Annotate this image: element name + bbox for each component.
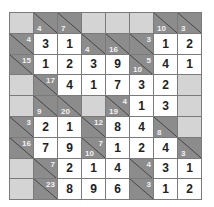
entry-cell[interactable]: 7 bbox=[106, 75, 130, 96]
blank-cell bbox=[130, 13, 154, 34]
entry-cell[interactable]: 8 bbox=[58, 179, 82, 200]
entry-cell[interactable]: 2 bbox=[130, 138, 154, 159]
blank-cell bbox=[178, 75, 202, 96]
entry-cell[interactable]: 4 bbox=[58, 75, 82, 96]
down-clue-sum: 3 bbox=[181, 149, 185, 158]
entry-cell[interactable]: 9 bbox=[106, 55, 130, 76]
blank-cell bbox=[82, 13, 106, 34]
down-clue-sum: 8 bbox=[157, 128, 161, 137]
clue-cell: 16 bbox=[10, 138, 34, 159]
kakuro-board: 4710343141631215123951041174173292041913… bbox=[9, 12, 202, 200]
entry-cell[interactable]: 2 bbox=[58, 159, 82, 180]
clue-cell: 12 bbox=[82, 117, 106, 138]
entry-cell[interactable]: 2 bbox=[178, 179, 202, 200]
down-clue-sum: 19 bbox=[109, 107, 118, 116]
clue-cell: 15 bbox=[10, 55, 34, 76]
down-clue-sum: 16 bbox=[109, 45, 118, 54]
blank-cell bbox=[178, 117, 202, 138]
entry-cell[interactable]: 3 bbox=[130, 75, 154, 96]
clue-cell: 17 bbox=[34, 75, 58, 96]
clue-cell: 3 bbox=[130, 34, 154, 55]
entry-cell[interactable]: 2 bbox=[178, 34, 202, 55]
entry-cell[interactable]: 4 bbox=[154, 55, 178, 76]
across-clue-sum: 7 bbox=[99, 139, 103, 148]
across-clue-sum: 7 bbox=[51, 160, 55, 169]
clue-cell: 510 bbox=[130, 55, 154, 76]
blank-cell bbox=[10, 75, 34, 96]
clue-cell: 8 bbox=[154, 117, 178, 138]
down-clue-sum: 4 bbox=[37, 24, 41, 33]
across-clue-sum: 12 bbox=[94, 118, 103, 127]
blank-cell bbox=[178, 96, 202, 117]
entry-cell[interactable]: 9 bbox=[58, 138, 82, 159]
across-clue-sum: 5 bbox=[147, 56, 151, 65]
clue-cell: 4 bbox=[130, 159, 154, 180]
clue-cell: 4 bbox=[10, 34, 34, 55]
clue-cell: 9 bbox=[34, 96, 58, 117]
clue-cell: 4 bbox=[34, 13, 58, 34]
entry-cell[interactable]: 1 bbox=[178, 159, 202, 180]
entry-cell[interactable]: 1 bbox=[82, 75, 106, 96]
down-clue-sum: 20 bbox=[61, 107, 70, 116]
entry-cell[interactable]: 1 bbox=[58, 117, 82, 138]
across-clue-sum: 4 bbox=[123, 97, 127, 106]
clue-cell: 3 bbox=[178, 138, 202, 159]
across-clue-sum: 17 bbox=[46, 76, 55, 85]
across-clue-sum: 4 bbox=[147, 160, 151, 169]
clue-cell: 710 bbox=[82, 138, 106, 159]
entry-cell[interactable]: 2 bbox=[34, 117, 58, 138]
clue-cell: 23 bbox=[34, 179, 58, 200]
clue-cell: 10 bbox=[154, 13, 178, 34]
entry-cell[interactable]: 1 bbox=[58, 34, 82, 55]
down-clue-sum: 10 bbox=[157, 24, 166, 33]
entry-cell[interactable]: 3 bbox=[82, 55, 106, 76]
clue-cell: 7 bbox=[58, 13, 82, 34]
blank-cell bbox=[106, 13, 130, 34]
entry-cell[interactable]: 1 bbox=[34, 55, 58, 76]
across-clue-sum: 3 bbox=[147, 35, 151, 44]
entry-cell[interactable]: 8 bbox=[106, 117, 130, 138]
entry-cell[interactable]: 3 bbox=[154, 159, 178, 180]
clue-cell: 16 bbox=[106, 34, 130, 55]
down-clue-sum: 10 bbox=[133, 65, 142, 74]
down-clue-sum: 7 bbox=[61, 24, 65, 33]
entry-cell[interactable]: 2 bbox=[154, 75, 178, 96]
clue-cell: 419 bbox=[106, 96, 130, 117]
blank-cell bbox=[10, 159, 34, 180]
entry-cell[interactable]: 9 bbox=[82, 179, 106, 200]
clue-cell: 3 bbox=[10, 117, 34, 138]
entry-cell[interactable]: 4 bbox=[154, 138, 178, 159]
entry-cell[interactable]: 1 bbox=[106, 138, 130, 159]
across-clue-sum: 16 bbox=[22, 139, 31, 148]
entry-cell[interactable]: 2 bbox=[58, 55, 82, 76]
clue-cell: 20 bbox=[58, 96, 82, 117]
clue-cell: 3 bbox=[130, 179, 154, 200]
across-clue-sum: 4 bbox=[27, 35, 31, 44]
across-clue-sum: 23 bbox=[46, 180, 55, 189]
across-clue-sum: 15 bbox=[22, 56, 31, 65]
entry-cell[interactable]: 1 bbox=[154, 179, 178, 200]
clue-cell: 4 bbox=[82, 34, 106, 55]
down-clue-sum: 4 bbox=[85, 45, 89, 54]
blank-cell bbox=[82, 96, 106, 117]
down-clue-sum: 3 bbox=[181, 24, 185, 33]
entry-cell[interactable]: 7 bbox=[34, 138, 58, 159]
entry-cell[interactable]: 1 bbox=[154, 34, 178, 55]
entry-cell[interactable]: 1 bbox=[82, 159, 106, 180]
down-clue-sum: 10 bbox=[85, 149, 94, 158]
clue-cell: 7 bbox=[34, 159, 58, 180]
entry-cell[interactable]: 4 bbox=[130, 117, 154, 138]
across-clue-sum: 3 bbox=[147, 180, 151, 189]
blank-cell bbox=[10, 13, 34, 34]
blank-cell bbox=[10, 96, 34, 117]
entry-cell[interactable]: 1 bbox=[178, 55, 202, 76]
across-clue-sum: 3 bbox=[27, 118, 31, 127]
entry-cell[interactable]: 3 bbox=[154, 96, 178, 117]
entry-cell[interactable]: 4 bbox=[106, 159, 130, 180]
entry-cell[interactable]: 3 bbox=[34, 34, 58, 55]
down-clue-sum: 9 bbox=[37, 107, 41, 116]
entry-cell[interactable]: 6 bbox=[106, 179, 130, 200]
entry-cell[interactable]: 1 bbox=[130, 96, 154, 117]
blank-cell bbox=[10, 179, 34, 200]
clue-cell: 3 bbox=[178, 13, 202, 34]
